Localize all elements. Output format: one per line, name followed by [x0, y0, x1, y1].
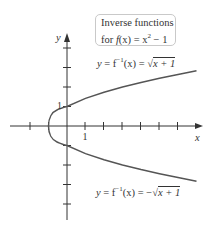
y-axis-arrow-icon — [64, 33, 70, 42]
x-axis-arrow-icon — [195, 123, 203, 129]
legend-line-2: for f(x) = x2 − 1 — [101, 30, 175, 46]
x-axis-label: x — [194, 132, 200, 143]
y-axis-label: y — [55, 32, 61, 43]
x-tick-label-1: 1 — [83, 131, 88, 142]
legend-line-1: Inverse functions — [101, 17, 175, 30]
y-tick-label-1: 1 — [57, 100, 62, 111]
upper-curve-label: y = f−1(x) = √x + 1 — [97, 56, 175, 69]
lower-curve-label: y = f−1(x) = −√x + 1 — [96, 185, 180, 198]
upper-branch-curve — [49, 71, 197, 126]
lower-branch-curve — [49, 126, 197, 181]
legend-box: Inverse functions for f(x) = x2 − 1 — [95, 14, 176, 46]
